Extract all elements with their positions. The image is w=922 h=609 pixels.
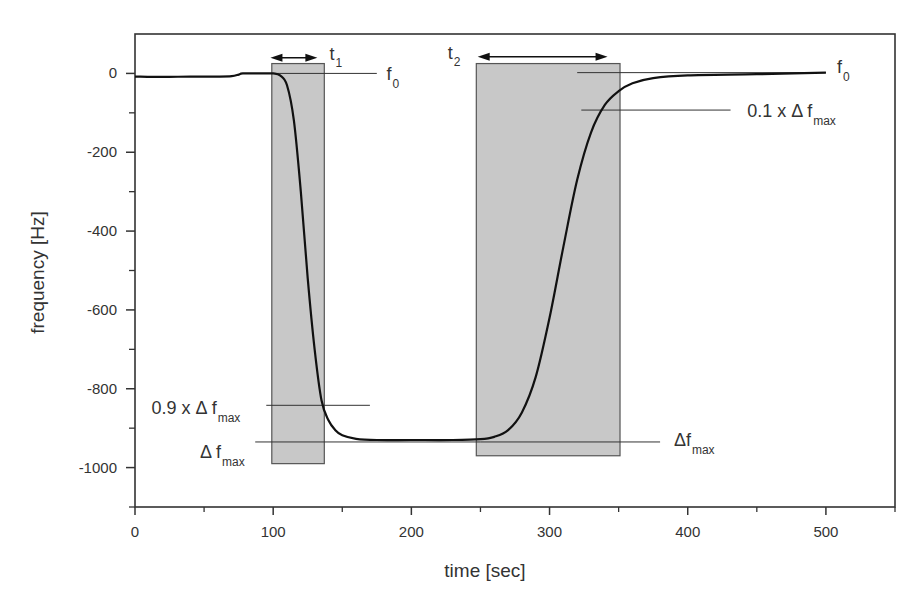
arrowhead-right-icon <box>305 54 317 62</box>
y-axis-title: frequency [Hz] <box>27 211 48 334</box>
y-tick-label: -400 <box>87 222 117 239</box>
shaded-regions <box>272 64 620 464</box>
0.1-dfmax-label: 0.1 x Δ fmax <box>747 101 836 128</box>
t1-arrow-label: t1 <box>329 44 342 70</box>
f0-left-label: f0 <box>386 64 399 91</box>
x-tick-label: 0 <box>131 523 139 540</box>
shaded-region-t1 <box>272 64 325 464</box>
chart-container: 01002003004005000-200-400-600-800-1000 t… <box>0 0 922 609</box>
shaded-region-t2 <box>476 64 620 456</box>
y-tick-label: -600 <box>87 301 117 318</box>
arrowhead-left-icon <box>478 53 490 61</box>
x-tick-label: 400 <box>675 523 700 540</box>
y-tick-label: -200 <box>87 143 117 160</box>
dfmax-right-label: Δfmax <box>674 430 715 457</box>
x-tick-label: 100 <box>261 523 286 540</box>
arrowhead-left-icon <box>270 54 282 62</box>
x-tick-label: 300 <box>537 523 562 540</box>
chart-svg: 01002003004005000-200-400-600-800-1000 t… <box>0 0 922 609</box>
dfmax-left-label: Δ fmax <box>200 442 245 469</box>
f0-right-label: f0 <box>837 57 850 84</box>
x-axis-title: time [sec] <box>444 560 525 581</box>
t2-arrow-label: t2 <box>448 43 461 69</box>
x-tick-label: 500 <box>813 523 838 540</box>
x-tick-label: 200 <box>399 523 424 540</box>
y-tick-label: -1000 <box>79 459 117 476</box>
y-tick-label: -800 <box>87 380 117 397</box>
arrowhead-right-icon <box>596 53 608 61</box>
y-tick-label: 0 <box>109 64 117 81</box>
0.9-dfmax-label: 0.9 x Δ fmax <box>152 398 241 425</box>
